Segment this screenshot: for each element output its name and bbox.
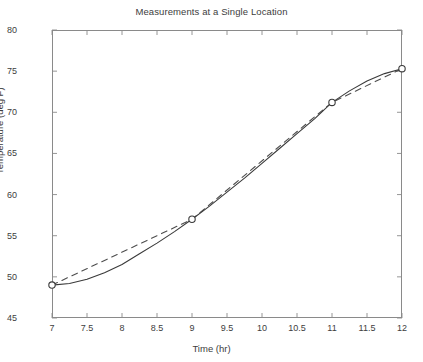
y-tick-label: 60: [0, 190, 17, 200]
x-tick-label: 7: [49, 323, 54, 333]
x-tick-label: 7.5: [81, 323, 94, 333]
data-point-marker: [189, 216, 195, 222]
x-tick-label: 9.5: [221, 323, 234, 333]
x-tick-label: 11: [327, 323, 336, 333]
x-tick-label: 10: [257, 323, 267, 333]
x-tick-label: 12: [397, 323, 407, 333]
figure: Measurements at a Single Location Temper…: [0, 0, 423, 362]
y-tick-label: 65: [0, 148, 17, 158]
y-tick-label: 50: [0, 272, 17, 282]
y-tick-label: 70: [0, 107, 17, 117]
y-tick-label: 55: [0, 231, 17, 241]
x-tick-label: 9: [189, 323, 194, 333]
plot-area: [52, 30, 402, 318]
x-tick-label: 10.5: [288, 323, 306, 333]
chart-title: Measurements at a Single Location: [0, 6, 423, 17]
y-tick-label: 45: [0, 313, 17, 323]
y-tick-label: 80: [0, 25, 17, 35]
chart-canvas: [52, 30, 402, 318]
y-axis-label: Temperature (deg F): [0, 87, 5, 174]
x-tick-label: 8.5: [151, 323, 164, 333]
data-point-marker: [49, 282, 55, 288]
series-line-1: [52, 69, 402, 285]
x-tick-label: 8: [119, 323, 124, 333]
series-line-0: [52, 69, 402, 285]
x-tick-label: 11.5: [359, 323, 376, 333]
x-axis-label: Time (hr): [0, 343, 423, 354]
data-point-marker: [329, 99, 335, 105]
y-tick-label: 75: [0, 66, 17, 76]
data-point-marker: [399, 65, 405, 71]
